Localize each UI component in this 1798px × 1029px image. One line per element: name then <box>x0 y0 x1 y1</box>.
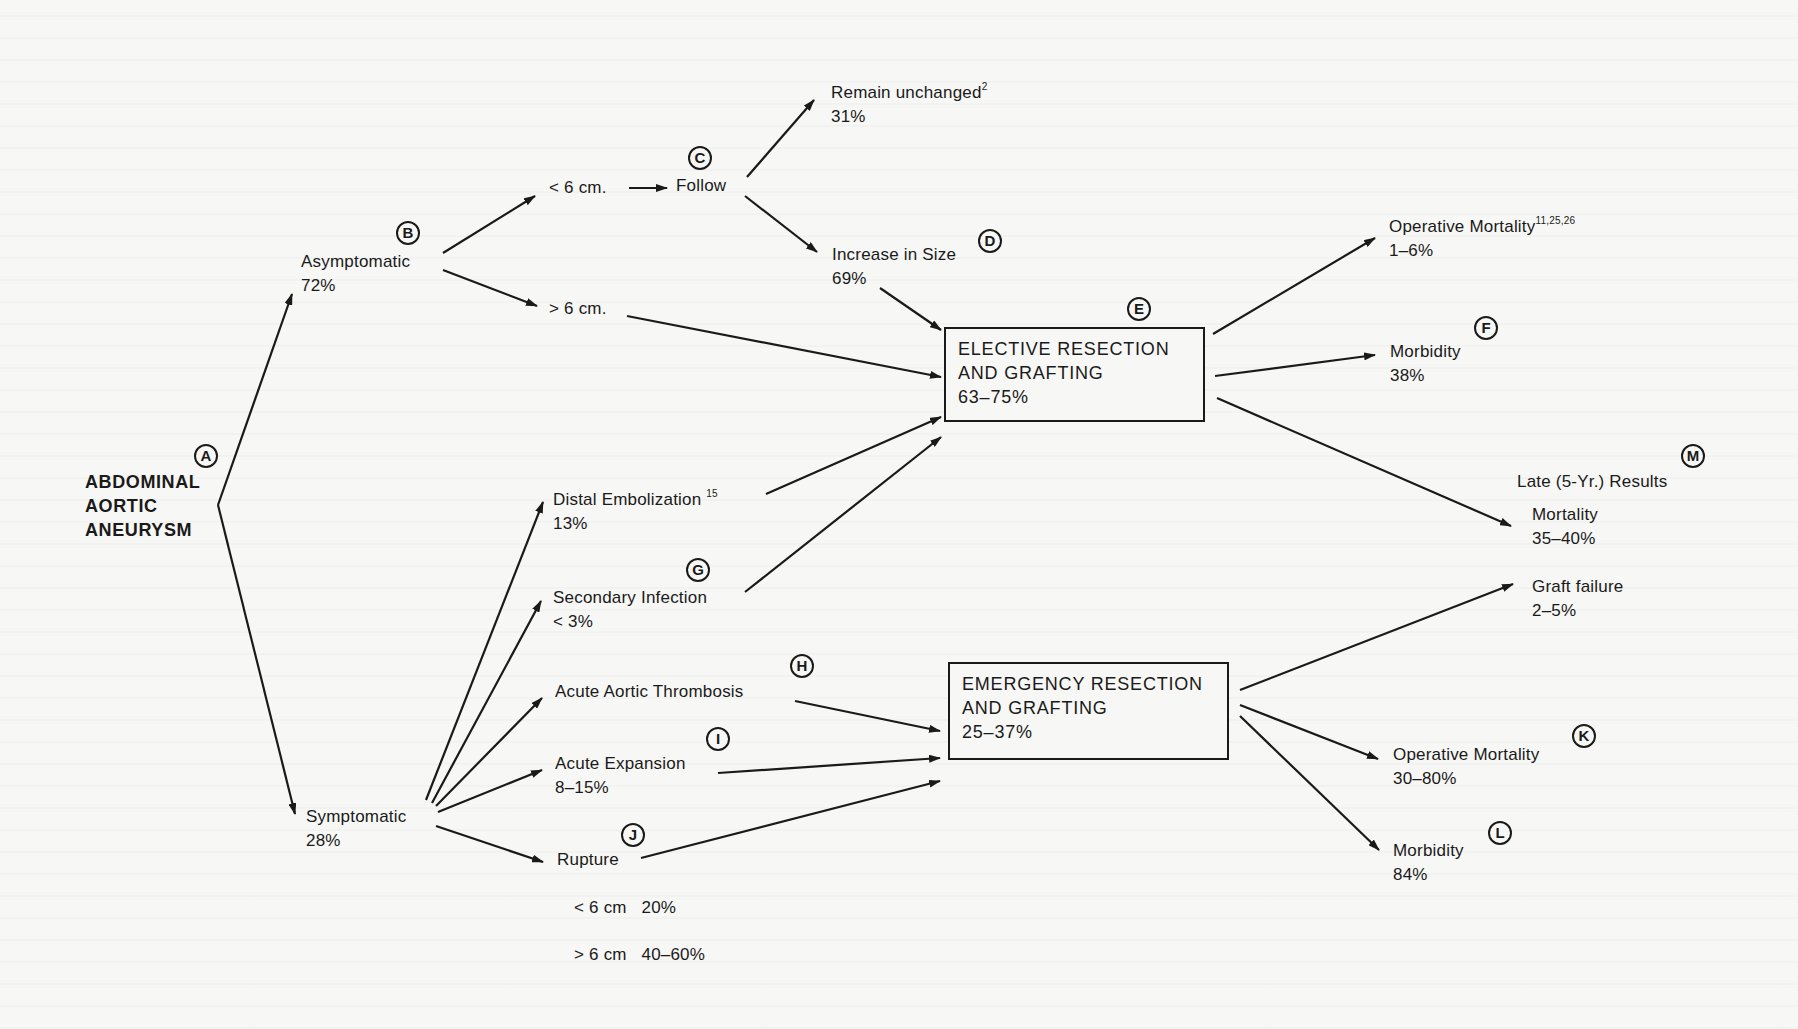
node-secondary-infection: Secondary Infection < 3% <box>553 586 707 634</box>
emergency-morbidity-label: Morbidity <box>1393 839 1464 863</box>
marker-g: G <box>686 558 710 582</box>
elective-morbidity-value: 38% <box>1390 364 1461 388</box>
node-acute-aortic-thrombosis: Acute Aortic Thrombosis <box>555 680 744 704</box>
marker-f: F <box>1474 316 1498 340</box>
symptomatic-label: Symptomatic <box>306 805 406 829</box>
node-elective-morbidity: Morbidity 38% <box>1390 340 1461 388</box>
distal-embolization-label: Distal Embolization <box>553 490 701 509</box>
acute-expansion-label: Acute Expansion <box>555 752 686 776</box>
box-elective-resection: ELECTIVE RESECTION AND GRAFTING 63–75% <box>944 327 1205 422</box>
root-line-2: AORTIC <box>85 494 200 518</box>
elective-line-1: ELECTIVE RESECTION <box>958 337 1191 361</box>
marker-c: C <box>688 146 712 170</box>
marker-m: M <box>1681 444 1705 468</box>
remain-unchanged-value: 31% <box>831 105 987 129</box>
rupture-row-gt6: > 6 cm 40–60% <box>574 943 705 967</box>
remain-unchanged-ref: 2 <box>982 81 988 92</box>
node-remain-unchanged: Remain unchanged2 31% <box>831 81 987 129</box>
emergency-line-1: EMERGENCY RESECTION <box>962 672 1215 696</box>
node-size-greater-than-6cm: > 6 cm. <box>549 297 607 321</box>
node-emergency-morbidity: Morbidity 84% <box>1393 839 1464 887</box>
graft-failure-value: 2–5% <box>1532 599 1623 623</box>
symptomatic-value: 28% <box>306 829 406 853</box>
node-rupture: Rupture <box>557 848 619 872</box>
emergency-value: 25–37% <box>962 720 1215 744</box>
marker-e: E <box>1127 297 1151 321</box>
rupture-row-lt6-value: 20% <box>641 898 676 917</box>
elective-op-mortality-label: Operative Mortality <box>1389 217 1535 236</box>
marker-i: I <box>706 727 730 751</box>
rupture-row-gt6-value: 40–60% <box>641 945 705 964</box>
emergency-op-mortality-value: 30–80% <box>1393 767 1539 791</box>
node-size-less-than-6cm: < 6 cm. <box>549 176 607 200</box>
elective-morbidity-label: Morbidity <box>1390 340 1461 364</box>
graft-failure-label: Graft failure <box>1532 575 1623 599</box>
node-graft-failure: Graft failure 2–5% <box>1532 575 1623 623</box>
increase-in-size-value: 69% <box>832 267 956 291</box>
node-increase-in-size: Increase in Size 69% <box>832 243 956 291</box>
acute-expansion-value: 8–15% <box>555 776 686 800</box>
elective-value: 63–75% <box>958 385 1191 409</box>
secondary-infection-value: < 3% <box>553 610 707 634</box>
marker-j: J <box>621 823 645 847</box>
node-symptomatic: Symptomatic 28% <box>306 805 406 853</box>
root-node-abdominal-aortic-aneurysm: ABDOMINAL AORTIC ANEURYSM <box>85 470 200 542</box>
late-mortality-label: Mortality <box>1532 503 1598 527</box>
marker-h: H <box>790 654 814 678</box>
marker-b: B <box>396 221 420 245</box>
secondary-infection-label: Secondary Infection <box>553 586 707 610</box>
elective-op-mortality-value: 1–6% <box>1389 239 1575 263</box>
node-late-mortality: Mortality 35–40% <box>1532 503 1598 551</box>
distal-embolization-ref: 15 <box>706 488 718 499</box>
remain-unchanged-label: Remain unchanged <box>831 83 982 102</box>
marker-d: D <box>978 229 1002 253</box>
emergency-op-mortality-label: Operative Mortality <box>1393 743 1539 767</box>
elective-line-2: AND GRAFTING <box>958 361 1191 385</box>
root-line-3: ANEURYSM <box>85 518 200 542</box>
late-results-title: Late (5-Yr.) Results <box>1517 470 1667 494</box>
node-acute-expansion: Acute Expansion 8–15% <box>555 752 686 800</box>
increase-in-size-label: Increase in Size <box>832 243 956 267</box>
rupture-row-lt6-size: < 6 cm <box>574 898 627 917</box>
elective-op-mortality-ref: 11,25,26 <box>1535 215 1575 226</box>
marker-k: K <box>1572 724 1596 748</box>
flowchart-arrows <box>0 0 1798 1029</box>
late-mortality-value: 35–40% <box>1532 527 1598 551</box>
node-distal-embolization: Distal Embolization 15 13% <box>553 488 718 536</box>
node-follow: Follow <box>676 174 726 198</box>
asymptomatic-value: 72% <box>301 274 410 298</box>
node-asymptomatic: Asymptomatic 72% <box>301 250 410 298</box>
node-elective-operative-mortality: Operative Mortality11,25,26 1–6% <box>1389 215 1575 263</box>
emergency-morbidity-value: 84% <box>1393 863 1464 887</box>
box-emergency-resection: EMERGENCY RESECTION AND GRAFTING 25–37% <box>948 662 1229 760</box>
rupture-row-gt6-size: > 6 cm <box>574 945 627 964</box>
distal-embolization-value: 13% <box>553 512 718 536</box>
node-emergency-operative-mortality: Operative Mortality 30–80% <box>1393 743 1539 791</box>
root-line-1: ABDOMINAL <box>85 470 200 494</box>
asymptomatic-label: Asymptomatic <box>301 250 410 274</box>
marker-l: L <box>1488 821 1512 845</box>
marker-a: A <box>194 444 218 468</box>
emergency-line-2: AND GRAFTING <box>962 696 1215 720</box>
rupture-row-lt6: < 6 cm 20% <box>574 896 676 920</box>
